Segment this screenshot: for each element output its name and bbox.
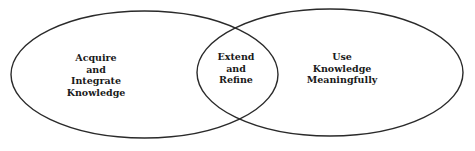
left-label-line: Acquire bbox=[67, 52, 126, 64]
overlap-label: Extend and Refine bbox=[218, 51, 255, 86]
right-circle-label: Use Knowledge Meaningfully bbox=[307, 51, 378, 86]
overlap-label-line: Refine bbox=[218, 74, 255, 86]
overlap-label-line: Extend bbox=[218, 51, 255, 63]
left-label-line: Knowledge bbox=[67, 87, 126, 99]
right-label-line: Knowledge bbox=[307, 63, 378, 75]
left-circle-label: Acquire and Integrate Knowledge bbox=[67, 52, 126, 98]
left-label-line: Integrate bbox=[67, 75, 126, 87]
left-label-line: and bbox=[67, 64, 126, 76]
right-label-line: Use bbox=[307, 51, 378, 63]
overlap-label-line: and bbox=[218, 63, 255, 75]
right-label-line: Meaningfully bbox=[307, 74, 378, 86]
